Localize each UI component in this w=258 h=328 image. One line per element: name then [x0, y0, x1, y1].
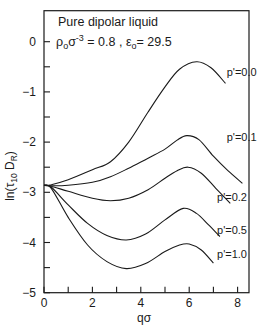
curve-label: p'=0.5 — [217, 224, 247, 236]
chart-subtitle: ρoσ-3 = 0.8 , εo= 29.5 — [56, 33, 172, 51]
y-tick-label: −1 — [22, 85, 36, 99]
x-tick-label: 8 — [234, 296, 241, 310]
y-tick-label: −2 — [22, 135, 36, 149]
curve-p--0-0 — [44, 62, 226, 186]
curve-label: p'=0.0 — [227, 66, 257, 78]
x-tick-label: 0 — [41, 296, 48, 310]
y-tick-label: −3 — [22, 185, 36, 199]
curve-p--0-1 — [44, 136, 242, 186]
y-tick-label: −5 — [22, 286, 36, 300]
x-tick-label: 6 — [186, 296, 193, 310]
x-tick-label: 4 — [137, 296, 144, 310]
curve-labels: p'=0.0p'=0.1p'=0.2p'=0.5p'=1.0 — [217, 66, 257, 260]
curve-label: p'=0.1 — [227, 131, 257, 143]
data-curves — [44, 62, 242, 269]
chart-title: Pure dipolar liquid — [58, 15, 158, 29]
y-tick-label: −4 — [22, 236, 36, 250]
y-tick-label: 0 — [29, 35, 36, 49]
curve-label: p'=0.2 — [217, 191, 247, 203]
x-axis-label: qσ — [137, 311, 152, 325]
y-axis-label: ln(τ10 DR) — [3, 151, 19, 201]
curve-label: p'=1.0 — [217, 248, 247, 260]
axis-ticks — [44, 42, 238, 293]
chart: 024680−1−2−3−4−5 p'=0.0p'=0.1p'=0.2p'=0.… — [0, 0, 258, 328]
x-tick-label: 2 — [89, 296, 96, 310]
curve-p--1-0 — [44, 185, 213, 269]
curve-p--0-5 — [44, 185, 220, 240]
